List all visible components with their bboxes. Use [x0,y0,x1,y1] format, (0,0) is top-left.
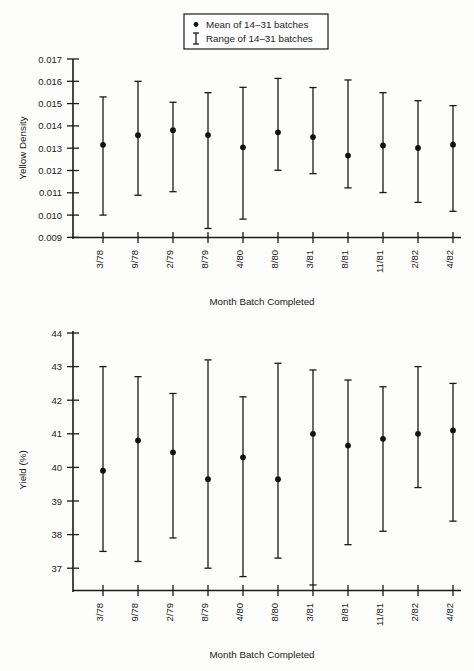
bottom-y-tick-label: 42 [51,395,62,406]
mean-marker [135,438,141,444]
mean-marker [415,431,421,437]
figure-page: Mean of 14–31 batches Range of 14–31 bat… [0,0,474,671]
legend-range-label: Range of 14–31 batches [206,33,313,44]
bottom-y-tick-label: 43 [51,361,62,372]
mean-marker [380,436,386,442]
bottom-y-tick-label: 39 [51,496,62,507]
top-y-tick-label: 0.010 [38,210,62,221]
mean-marker [240,144,246,150]
top-y-tick-label: 0.013 [38,143,62,154]
legend-mean-marker-icon [194,22,199,27]
bottom-x-tick-label: 2/79 [164,603,175,622]
yield-chart: 44 43 42 41 40 39 38 37 Yield (%) [17,328,461,661]
top-x-tick-label: 8/79 [199,250,210,269]
top-y-tick-label: 0.009 [38,232,62,243]
top-y-tick-label: 0.016 [38,76,62,87]
top-y-axis-title: Yellow Density [17,116,28,179]
yellow-density-chart: Mean of 14–31 batches Range of 14–31 bat… [17,14,461,307]
bottom-x-tick-label: 4/80 [234,603,245,622]
mean-marker [205,132,211,138]
mean-marker [275,476,281,482]
top-y-ticks: 0.017 0.016 0.015 0.014 0.013 0.012 0.01… [38,54,79,243]
mean-marker [310,134,316,140]
mean-marker [275,129,281,135]
bottom-x-axis-title: Month Batch Completed [209,649,314,660]
top-y-tick-label: 0.012 [38,165,62,176]
bottom-x-tick-label: 11/81 [374,603,385,626]
bottom-y-tick-label: 38 [51,529,62,540]
mean-marker [205,476,211,482]
mean-marker [450,142,456,148]
top-data-points [99,78,456,228]
bottom-x-tick-label: 9/78 [129,603,140,622]
mean-marker [415,145,421,151]
bottom-x-tick-label: 8/81 [339,603,350,622]
mean-marker [240,454,246,460]
bottom-y-tick-label: 44 [51,328,62,339]
mean-marker [450,428,456,434]
bottom-y-ticks: 44 43 42 41 40 39 38 37 [51,328,79,574]
bottom-x-tick-label: 3/78 [94,603,105,622]
top-y-tick-label: 0.015 [38,98,62,109]
top-x-tick-label: 9/78 [129,250,140,269]
mean-marker [345,153,351,159]
mean-marker [345,443,351,449]
top-x-tick-label: 4/80 [234,250,245,269]
mean-marker [135,132,141,138]
top-x-tick-label: 2/79 [164,250,175,269]
mean-marker [100,468,106,474]
two-panel-error-bar-figure: Mean of 14–31 batches Range of 14–31 bat… [0,0,474,671]
mean-marker [310,431,316,437]
bottom-y-tick-label: 41 [51,428,62,439]
top-x-tick-label: 8/81 [339,250,350,269]
top-x-tick-label: 3/78 [94,250,105,269]
top-x-tick-label: 11/81 [374,250,385,273]
bottom-x-tick-label: 3/81 [304,603,315,622]
top-x-tick-label: 3/81 [304,250,315,269]
bottom-x-tick-labels: 3/78 9/78 2/79 8/79 4/80 8/80 3/81 8/81 … [94,603,455,626]
top-x-tick-labels: 3/78 9/78 2/79 8/79 4/80 8/80 3/81 8/81 … [94,250,455,273]
top-x-tick-label: 2/82 [409,250,420,269]
mean-marker [170,127,176,133]
mean-marker [100,142,106,148]
bottom-x-tick-label: 8/80 [269,603,280,622]
bottom-x-tick-label: 8/79 [199,603,210,622]
legend: Mean of 14–31 batches Range of 14–31 bat… [184,14,328,49]
legend-mean-label: Mean of 14–31 batches [206,19,309,30]
top-y-tick-label: 0.011 [39,187,62,198]
mean-marker [380,143,386,149]
top-x-tick-label: 4/82 [444,250,455,269]
bottom-x-tick-label: 4/82 [444,603,455,622]
bottom-y-tick-label: 40 [51,462,62,473]
top-x-tick-label: 8/80 [269,250,280,269]
bottom-data-points [99,360,456,585]
bottom-y-tick-label: 37 [51,563,62,574]
top-y-tick-label: 0.014 [38,120,62,131]
bottom-x-tick-label: 2/82 [409,603,420,622]
mean-marker [170,449,176,455]
top-x-axis-title: Month Batch Completed [209,296,314,307]
top-y-tick-label: 0.017 [38,54,62,65]
bottom-y-axis-title: Yield (%) [17,450,28,489]
